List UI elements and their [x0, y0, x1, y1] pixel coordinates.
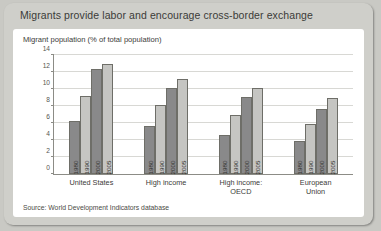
category-label: EuropeanUnion: [278, 178, 353, 196]
chart-subtitle: Migrant population (% of total populatio…: [23, 35, 161, 44]
plot-area: 02468101214 1980199020002005United State…: [13, 51, 364, 191]
bar-year-label: 2000: [318, 160, 325, 174]
card-title: Migrants provide labor and encourage cro…: [20, 9, 360, 21]
bar-year-label: 1980: [146, 160, 153, 174]
y-tick-label: 14: [43, 45, 50, 52]
bar-group: 1980199020002005United States: [54, 55, 129, 174]
bar: 1980: [144, 126, 155, 174]
bar-year-label: 1990: [232, 160, 239, 174]
y-tick-label: 10: [43, 79, 50, 86]
bars: 1980199020002005: [54, 55, 129, 174]
y-tick-label: 6: [46, 113, 50, 120]
y-tick-label: 12: [43, 62, 50, 69]
chart-panel: Migrant population (% of total populatio…: [13, 29, 364, 217]
bar-year-label: 1980: [71, 160, 78, 174]
bar: 1980: [294, 141, 305, 174]
category-label: High income: [129, 178, 204, 187]
bar: 2005: [102, 64, 113, 175]
bar-year-label: 2005: [329, 160, 336, 174]
bar-year-label: 2005: [179, 160, 186, 174]
bar-year-label: 2005: [104, 160, 111, 174]
bar: 2000: [166, 88, 177, 174]
bars: 1980199020002005: [278, 55, 353, 174]
bar: 1990: [230, 115, 241, 174]
bar: 2000: [241, 97, 252, 174]
bar-year-label: 1990: [307, 160, 314, 174]
bar-year-label: 2005: [254, 160, 261, 174]
bar: 1980: [219, 135, 230, 174]
bar-year-label: 2000: [93, 160, 100, 174]
bar: 2000: [316, 109, 327, 174]
chart-axes: 02468101214 1980199020002005United State…: [53, 55, 353, 175]
bar-group: 1980199020002005High income:OECD: [204, 55, 279, 174]
bar: 1990: [305, 124, 316, 174]
chart-card: Migrants provide labor and encourage cro…: [4, 3, 373, 225]
bar: 1980: [69, 121, 80, 174]
y-tick-label: 0: [46, 164, 50, 171]
bars: 1980199020002005: [129, 55, 204, 174]
bar: 2005: [177, 79, 188, 174]
bar-year-label: 1980: [221, 160, 228, 174]
source-note: Source: World Development Indicators dat…: [23, 204, 169, 211]
bar-year-label: 1980: [296, 160, 303, 174]
bar: 1990: [80, 96, 91, 174]
bar-year-label: 2000: [168, 160, 175, 174]
bar: 2005: [252, 88, 263, 174]
bar: 2005: [327, 98, 338, 174]
bar: 2000: [91, 69, 102, 174]
bar-year-label: 2000: [243, 160, 250, 174]
bar-year-label: 1990: [157, 160, 164, 174]
y-tick-label: 2: [46, 147, 50, 154]
bar: 1990: [155, 105, 166, 174]
y-tick-label: 8: [46, 96, 50, 103]
bar-group: 1980199020002005High income: [129, 55, 204, 174]
y-tick-label: 4: [46, 130, 50, 137]
bars: 1980199020002005: [204, 55, 279, 174]
category-label: High income:OECD: [204, 178, 279, 196]
bar-group: 1980199020002005EuropeanUnion: [278, 55, 353, 174]
category-label: United States: [54, 178, 129, 187]
bar-year-label: 1990: [82, 160, 89, 174]
